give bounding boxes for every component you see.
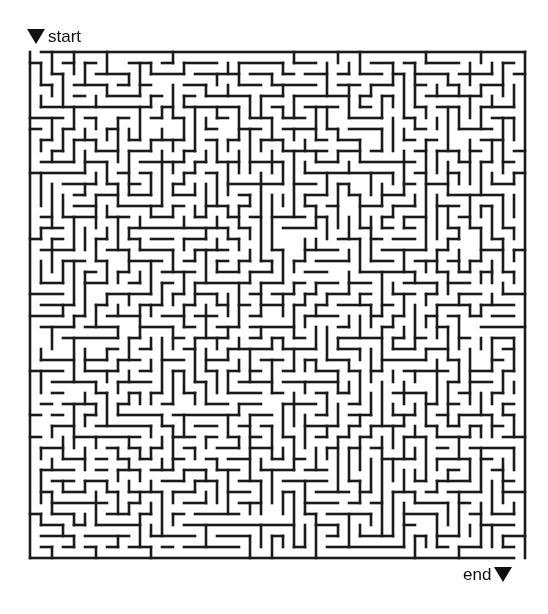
end-marker: end — [463, 566, 512, 583]
start-marker: start — [27, 28, 81, 45]
triangle-down-icon — [27, 29, 45, 44]
triangle-down-icon — [494, 567, 512, 582]
start-label: start — [48, 28, 81, 45]
maze-grid — [0, 0, 548, 614]
maze-page: start end — [0, 0, 548, 614]
end-label: end — [463, 566, 491, 583]
